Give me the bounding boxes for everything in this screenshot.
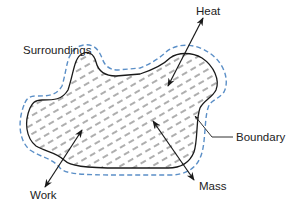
heat-label: Heat — [196, 6, 220, 18]
work-label: Work — [30, 190, 57, 202]
surroundings-label: Surroundings — [23, 45, 91, 57]
mass-label: Mass — [199, 181, 226, 193]
diagram-canvas — [0, 0, 296, 208]
system-region — [27, 52, 218, 168]
boundary-leader-line — [195, 116, 233, 137]
thermodynamic-system-diagram: Surroundings Heat Boundary Work Mass — [0, 0, 296, 208]
boundary-label: Boundary — [236, 132, 285, 144]
